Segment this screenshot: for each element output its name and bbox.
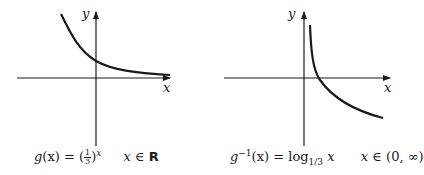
right-domain-symbol: ∈ <box>372 149 382 164</box>
left-exponential-curve <box>61 14 170 75</box>
right-caption: g−1(x) = log1/3 x x ∈ (0, ∞) <box>230 148 424 167</box>
right-x-label: x <box>384 80 391 95</box>
inverse-superscript: −1 <box>238 148 251 158</box>
right-func-arg: (x) = log <box>252 149 309 164</box>
left-exponent: x <box>96 148 101 158</box>
left-domain-var: x <box>124 149 131 164</box>
log-base: 1/3 <box>309 157 323 167</box>
right-graph <box>224 12 390 146</box>
right-domain-var: x <box>361 149 368 164</box>
right-y-label: y <box>288 6 295 21</box>
right-log-curve <box>310 25 383 118</box>
left-domain-set: R <box>149 149 159 164</box>
left-domain-symbol: ∈ <box>135 149 145 164</box>
left-graph <box>17 12 170 146</box>
left-func-arg: (x) = ( <box>42 149 84 164</box>
left-x-label: x <box>163 80 170 95</box>
left-caption: g(x) = (13)x x ∈ R <box>34 148 159 166</box>
left-y-label: y <box>82 6 89 21</box>
right-domain-set: (0, ∞) <box>386 149 424 164</box>
right-var: x <box>327 149 334 164</box>
